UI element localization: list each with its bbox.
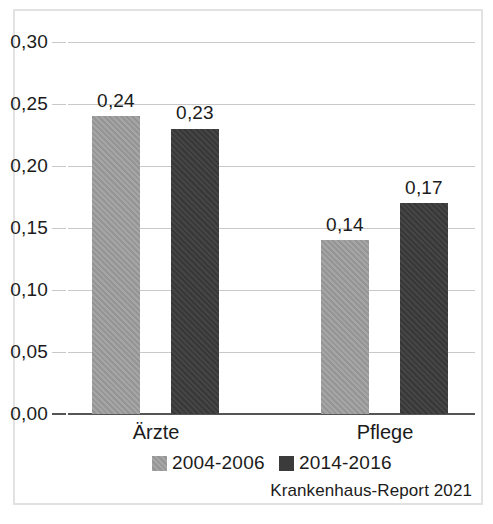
legend: 2004-2006 2014-2016 <box>0 452 493 476</box>
bar-pflege-2004-2006[interactable] <box>321 240 369 414</box>
ytick-label-0.05: 0,05 <box>10 341 48 363</box>
bar-value-label-pflege-2004-2006: 0,14 <box>326 214 364 236</box>
ytick-label-0.20: 0,20 <box>10 155 48 177</box>
bar-pflege-2014-2016[interactable] <box>400 203 448 414</box>
ytick-label-0.00: 0,00 <box>10 403 48 425</box>
ytick-stub-0.00 <box>52 413 66 415</box>
ytick-label-0.30: 0,30 <box>10 31 48 53</box>
plot-area: 0,30 0,25 0,20 0,15 0,10 0,05 0,00 0,24 … <box>68 42 475 414</box>
bar-value-label-pflege-2014-2016: 0,17 <box>405 177 443 199</box>
ytick-stub-0.20 <box>52 166 66 167</box>
ytick-label-0.25: 0,25 <box>10 93 48 115</box>
legend-label-2014-2016: 2014-2016 <box>299 452 392 474</box>
source-caption: Krankenhaus-Report 2021 <box>270 481 472 501</box>
ytick-stub-0.10 <box>52 290 66 291</box>
ytick-label-0.15: 0,15 <box>10 217 48 239</box>
legend-label-2004-2006: 2004-2006 <box>172 452 265 474</box>
ytick-stub-0.30 <box>52 42 66 43</box>
gridline-0.30 <box>68 42 475 43</box>
bar-value-label-aerzte-2014-2016: 0,23 <box>176 102 214 124</box>
category-label-aerzte: Ärzte <box>133 421 180 444</box>
category-label-pflege: Pflege <box>357 421 414 444</box>
legend-swatch-icon-2014-2016 <box>279 456 294 471</box>
bar-value-label-aerzte-2004-2006: 0,24 <box>97 90 135 112</box>
ytick-stub-0.05 <box>52 352 66 353</box>
ytick-stub-0.25 <box>52 104 66 105</box>
legend-item-2014-2016[interactable]: 2014-2016 <box>279 452 392 474</box>
chart-figure: 0,30 0,25 0,20 0,15 0,10 0,05 0,00 0,24 … <box>0 0 493 524</box>
legend-swatch-icon-2004-2006 <box>152 456 167 471</box>
ytick-label-0.10: 0,10 <box>10 279 48 301</box>
bar-aerzte-2004-2006[interactable] <box>92 116 140 414</box>
ytick-stub-0.15 <box>52 228 66 229</box>
bar-aerzte-2014-2016[interactable] <box>171 129 219 414</box>
legend-item-2004-2006[interactable]: 2004-2006 <box>152 452 265 474</box>
